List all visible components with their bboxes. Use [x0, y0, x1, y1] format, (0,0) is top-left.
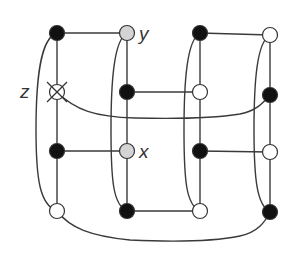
graph-diagram [0, 0, 300, 253]
node-black [263, 205, 278, 220]
node-white [193, 85, 208, 100]
node-white [263, 145, 278, 160]
node-x-gray [120, 144, 135, 159]
node-black [50, 26, 65, 41]
node-black [50, 144, 65, 159]
loop-column-4 [254, 35, 270, 212]
node-black [120, 85, 135, 100]
label-z: z [20, 82, 30, 101]
loop-column-1 [36, 33, 57, 211]
node-z-crossed [47, 82, 67, 102]
node-white [263, 28, 278, 43]
edge-row1-right [200, 33, 270, 35]
node-y-gray [120, 26, 135, 41]
loop-column-3 [184, 33, 200, 211]
label-y: y [139, 24, 149, 43]
node-white [50, 204, 65, 219]
node-black [193, 144, 208, 159]
node-white [193, 204, 208, 219]
node-black [120, 204, 135, 219]
loop-column-2 [111, 33, 127, 211]
edge-row3-right [200, 151, 270, 152]
curve-bottom [57, 211, 270, 241]
curve-z-to-right [57, 92, 270, 118]
node-black [193, 26, 208, 41]
node-black [263, 88, 278, 103]
label-x: x [139, 142, 149, 161]
